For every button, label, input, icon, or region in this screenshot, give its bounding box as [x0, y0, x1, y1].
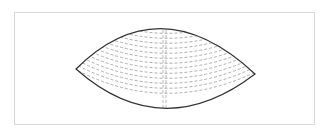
contour-arc: [36, 0, 295, 43]
contour-arc: [36, 0, 295, 28]
contour-arc: [36, 0, 295, 38]
center-dashed-lines: [163, 20, 166, 115]
contour-arc: [36, 0, 295, 23]
lens-diagram: [0, 0, 330, 131]
contour-arc: [36, 0, 295, 48]
contour-arcs: [36, 0, 295, 93]
